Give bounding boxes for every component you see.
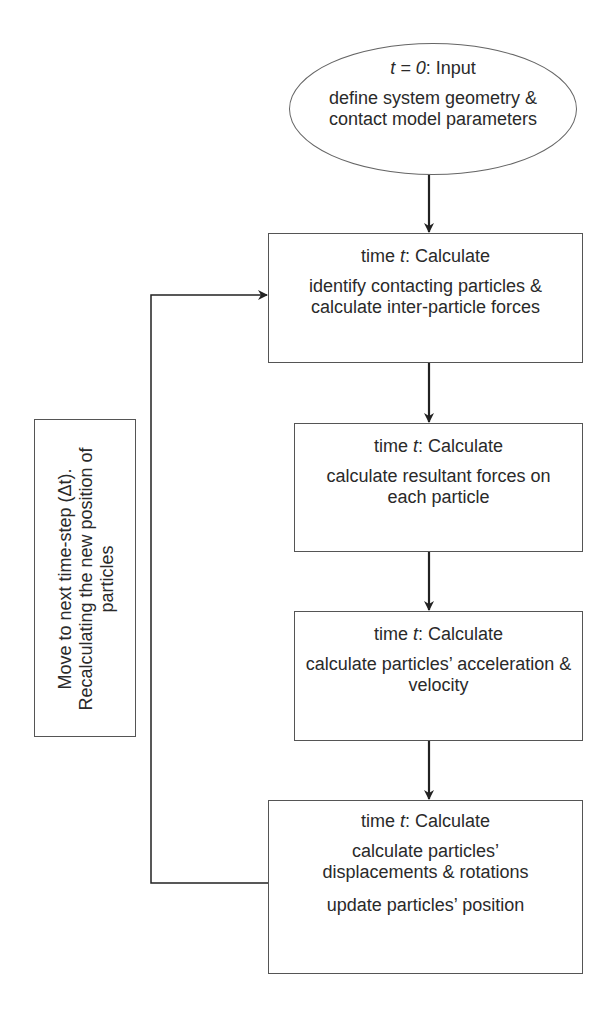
step-2-title-prefix: time	[374, 436, 413, 456]
step-3-box: time t: Calculate calculate particles’ a…	[294, 611, 583, 741]
start-line-2: contact model parameters	[290, 109, 576, 130]
start-title: t = 0: Input	[290, 58, 576, 79]
step-2-title-rest: : Calculate	[418, 436, 503, 456]
loop-label-text: Move to next time-step (Δt). Recalculati…	[55, 429, 118, 729]
step-3-title-rest: : Calculate	[418, 624, 503, 644]
start-title-rest: : Input	[426, 58, 476, 78]
start-title-var: t = 0	[390, 58, 426, 78]
step-4-text-2: update particles’ position	[303, 895, 548, 916]
step-4-box: time t: Calculate calculate particles’ d…	[268, 800, 583, 974]
step-3-text: calculate particles’ acceleration & velo…	[299, 654, 578, 696]
step-2-box: time t: Calculate calculate resultant fo…	[294, 423, 583, 552]
step-2-title: time t: Calculate	[307, 436, 570, 457]
step-4-text-1: calculate particles’ displacements & rot…	[303, 841, 548, 883]
step-3-title-prefix: time	[374, 624, 413, 644]
step-4-title-prefix: time	[361, 811, 400, 831]
loop-arrow-step4-to-step1	[151, 295, 268, 883]
step-1-title: time t: Calculate	[287, 246, 564, 267]
step-2-text: calculate resultant forces on each parti…	[307, 466, 570, 508]
step-1-text: identify contacting particles & calculat…	[287, 276, 564, 318]
step-1-box: time t: Calculate identify contacting pa…	[268, 233, 583, 363]
step-1-title-prefix: time	[361, 246, 400, 266]
start-line-1: define system geometry &	[290, 88, 576, 109]
step-4-title: time t: Calculate	[303, 811, 548, 832]
step-3-title: time t: Calculate	[299, 624, 578, 645]
loop-label-box: Move to next time-step (Δt). Recalculati…	[34, 419, 136, 737]
step-1-title-rest: : Calculate	[405, 246, 490, 266]
step-4-title-rest: : Calculate	[405, 811, 490, 831]
start-node-input: t = 0: Input define system geometry & co…	[289, 43, 577, 175]
